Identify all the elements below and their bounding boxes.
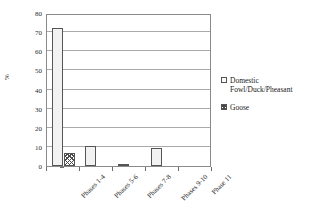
bar bbox=[52, 28, 63, 166]
y-tick-label: 80 bbox=[35, 11, 42, 18]
x-tick-mark bbox=[46, 167, 47, 171]
y-tick-label: 30 bbox=[35, 106, 42, 113]
bar bbox=[85, 146, 96, 166]
x-tick-mark bbox=[112, 167, 113, 171]
y-tick-label: 40 bbox=[35, 87, 42, 94]
x-tick-label: Phases 9-10 bbox=[179, 173, 208, 202]
legend-swatch-icon bbox=[221, 104, 227, 110]
bar bbox=[64, 153, 75, 166]
legend-swatch-icon bbox=[221, 77, 227, 83]
x-tick-label: Phases 7-8 bbox=[145, 173, 172, 200]
bar bbox=[151, 148, 162, 166]
legend-entry[interactable]: Goose bbox=[221, 103, 311, 112]
legend-label: Goose bbox=[230, 103, 311, 112]
x-tick-label: Phase 11 bbox=[210, 173, 233, 196]
x-tick-mark bbox=[145, 167, 146, 171]
y-tick-label: 10 bbox=[35, 144, 42, 151]
x-tick-mark bbox=[178, 167, 179, 171]
bars-layer bbox=[47, 15, 210, 166]
y-tick-label: 50 bbox=[35, 68, 42, 75]
y-tick-label: 0 bbox=[39, 164, 43, 171]
y-axis-title: % bbox=[4, 74, 11, 80]
y-tick-label: 20 bbox=[35, 125, 42, 132]
x-tick-label: Phases 1-4 bbox=[79, 173, 106, 200]
x-tick-label: Phases 5-6 bbox=[112, 173, 139, 200]
y-tick-label: 60 bbox=[35, 49, 42, 56]
bar bbox=[118, 164, 129, 166]
plot-area bbox=[46, 14, 211, 167]
legend-label: Domestic Fowl/Duck/Pheasant bbox=[230, 76, 311, 94]
legend-entry[interactable]: Domestic Fowl/Duck/Pheasant bbox=[221, 76, 311, 94]
y-tick-mark bbox=[60, 167, 64, 168]
x-tick-mark bbox=[79, 167, 80, 171]
chart-legend: Domestic Fowl/Duck/PheasantGoose bbox=[221, 76, 311, 121]
bar-chart-figure: % 01020304050607080 Phases 1-4Phases 5-6… bbox=[0, 0, 313, 220]
x-tick-mark bbox=[211, 167, 212, 171]
y-tick-label: 70 bbox=[35, 30, 42, 37]
y-axis-tick-labels: 01020304050607080 bbox=[18, 14, 42, 167]
